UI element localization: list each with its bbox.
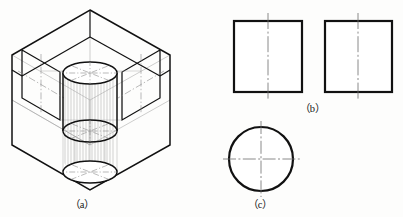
caption-b: （b） [300, 100, 325, 115]
technical-drawing-svg [0, 0, 403, 217]
front-view [234, 13, 302, 100]
panel-a-isometric [12, 10, 170, 190]
caption-c: （c） [248, 196, 272, 211]
panel-c-top-view [223, 121, 300, 197]
left-projection-panel [18, 50, 64, 120]
panel-b-orthographic-views [234, 13, 392, 100]
right-projection-panel [118, 50, 164, 120]
caption-a: （a） [70, 196, 94, 211]
base-projection-ellipse [58, 161, 122, 183]
cylinder-top-ellipse [58, 60, 122, 86]
side-view [325, 13, 392, 100]
figure-page: （a） （b） （c） [0, 0, 403, 217]
